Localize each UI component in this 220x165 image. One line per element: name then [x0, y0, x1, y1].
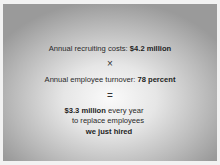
result-line-3: we just hired — [2, 127, 216, 137]
multiply-operator: × — [3, 59, 217, 69]
turnover-label: Annual employee turnover: — [45, 75, 138, 84]
turnover-line: Annual employee turnover: 78 percent — [3, 75, 217, 85]
result-line-2: to replace employees — [1, 116, 215, 126]
result-line-1: $3.3 million every year — [0, 106, 211, 116]
result-value: $3.3 million — [65, 106, 106, 115]
equals-operator: = — [3, 91, 217, 101]
turnover-value: 78 percent — [137, 75, 175, 84]
result-emphasis: we just hired — [86, 127, 132, 136]
result-text: every year — [106, 106, 144, 115]
slide: Annual recruiting costs: $4.2 million × … — [3, 4, 217, 161]
recruiting-costs-line: Annual recruiting costs: $4.2 million — [3, 44, 217, 54]
recruiting-costs-label: Annual recruiting costs: — [49, 44, 130, 53]
recruiting-costs-value: $4.2 million — [130, 44, 171, 53]
